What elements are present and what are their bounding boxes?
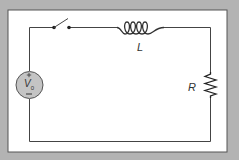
inductor-label: L [137,42,143,53]
source-label-main: V [24,78,31,89]
circuit-svg [0,0,239,160]
circuit-diagram: L R V0 [0,0,239,160]
source-label-subscript: 0 [31,85,34,91]
source-label: V0 [24,79,34,91]
switch-terminal-right [67,26,71,30]
resistor-label: R [188,82,196,93]
